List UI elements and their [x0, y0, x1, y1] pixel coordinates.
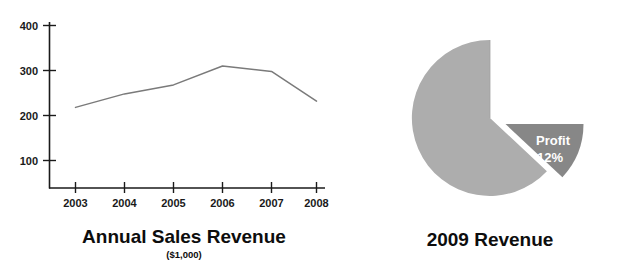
pie-slice-main: [412, 40, 547, 196]
x-tick-label-2006: 2006: [210, 197, 234, 209]
line-chart-title: Annual Sales Revenue: [82, 226, 286, 247]
x-tick-label-2008: 2008: [304, 197, 328, 209]
line-chart-subtitle: ($1,000): [166, 249, 201, 260]
pie-chart-title: 2009 Revenue: [427, 229, 554, 250]
pie-chart-panel: Profit 12% 2009 Revenue: [340, 0, 640, 268]
x-tick-label-2005: 2005: [161, 197, 185, 209]
line-chart-panel: 400 300 200 100 2003 2004 2005 2006 2007…: [0, 0, 340, 268]
data-line-annual-sales: [76, 66, 317, 107]
y-tick-label-100: 100: [20, 155, 38, 167]
x-tick-label-2003: 2003: [63, 197, 87, 209]
pie-slice-profit-percent: 12%: [537, 150, 563, 165]
pie-slice-profit-label: Profit: [536, 133, 571, 148]
x-tick-label-2007: 2007: [259, 197, 283, 209]
y-tick-label-200: 200: [20, 110, 38, 122]
line-chart-svg: 400 300 200 100 2003 2004 2005 2006 2007…: [0, 0, 340, 268]
y-tick-label-300: 300: [20, 65, 38, 77]
pie-chart-svg: Profit 12% 2009 Revenue: [340, 0, 640, 268]
figure-two-charts: 400 300 200 100 2003 2004 2005 2006 2007…: [0, 0, 640, 268]
y-tick-label-400: 400: [20, 20, 38, 32]
x-tick-label-2004: 2004: [112, 197, 137, 209]
